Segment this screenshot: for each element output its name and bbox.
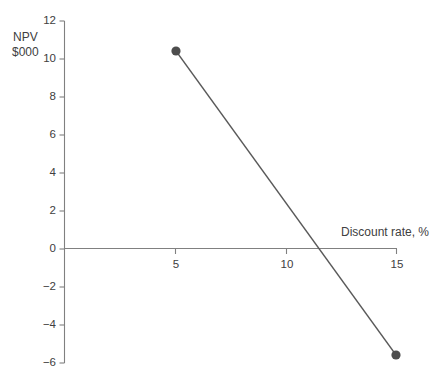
data-point-marker — [171, 46, 180, 55]
y-tick-label: 6 — [18, 128, 56, 140]
npv-sensitivity-chart: NPV $000 Discount rate, % 12 10 8 6 4 2 … — [0, 0, 448, 380]
x-tick-label: 5 — [156, 258, 196, 270]
x-tick-label: 15 — [377, 258, 417, 270]
y-axis — [60, 21, 65, 363]
y-tick-label: 10 — [18, 52, 56, 64]
y-tick-label: 8 — [18, 90, 56, 102]
npv-line-segment — [176, 51, 396, 355]
data-point-marker — [391, 350, 400, 359]
y-tick-label: −6 — [18, 356, 56, 368]
y-tick-label: 4 — [18, 166, 56, 178]
y-tick-label: −4 — [18, 318, 56, 330]
x-tick-label: 10 — [267, 258, 307, 270]
chart-canvas — [0, 0, 448, 380]
y-tick-label: 12 — [18, 14, 56, 26]
x-axis-title: Discount rate, % — [341, 225, 429, 240]
y-tick-label: 0 — [18, 242, 56, 254]
x-axis — [65, 249, 398, 255]
npv-series — [171, 46, 400, 359]
y-tick-label: 2 — [18, 204, 56, 216]
y-tick-label: −2 — [18, 280, 56, 292]
y-axis-title-line1: NPV — [12, 30, 39, 45]
